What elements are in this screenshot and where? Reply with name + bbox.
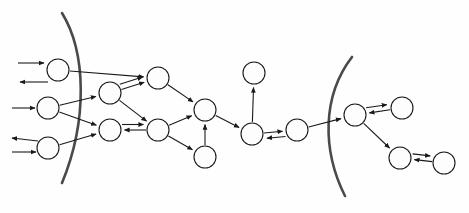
edge-M1-to-M4 bbox=[120, 100, 147, 121]
edge-M4-to-M6 bbox=[168, 136, 192, 150]
node-circle[interactable] bbox=[243, 62, 265, 84]
node-circle[interactable] bbox=[147, 67, 169, 89]
node-circle[interactable] bbox=[194, 99, 216, 121]
edge-M5-to-C2 bbox=[216, 115, 239, 127]
graph-node-M2[interactable] bbox=[99, 119, 121, 141]
edge-C2-to-C1 bbox=[252, 87, 253, 122]
graph-node-L2[interactable] bbox=[37, 97, 59, 119]
edge-L3-to-M2 bbox=[60, 134, 97, 145]
graph-node-M5[interactable] bbox=[194, 99, 216, 121]
nodes-group bbox=[37, 59, 455, 174]
edge-R4-to-R3 bbox=[414, 160, 432, 162]
edge-C3-to-R1 bbox=[309, 119, 341, 127]
edge-M1-to-M3 bbox=[121, 82, 144, 89]
graph-node-R2[interactable] bbox=[391, 97, 413, 119]
graph-node-C2[interactable] bbox=[241, 123, 263, 145]
edge-R2-to-R1 bbox=[369, 110, 390, 113]
node-circle[interactable] bbox=[391, 97, 413, 119]
graph-node-R1[interactable] bbox=[344, 104, 366, 126]
node-circle[interactable] bbox=[99, 119, 121, 141]
node-circle[interactable] bbox=[99, 82, 121, 104]
node-circle[interactable] bbox=[433, 152, 455, 174]
graph-node-L1[interactable] bbox=[47, 59, 69, 81]
edge-M3-to-M5 bbox=[168, 85, 193, 102]
node-circle[interactable] bbox=[37, 137, 59, 159]
edge-R3-to-R4 bbox=[413, 154, 431, 156]
edge-M4-to-M5 bbox=[169, 116, 192, 126]
graph-node-C1[interactable] bbox=[243, 62, 265, 84]
node-circle[interactable] bbox=[389, 147, 411, 169]
graph-node-C3[interactable] bbox=[286, 119, 308, 141]
edge-R1-to-R2 bbox=[366, 105, 387, 108]
edge-L2-to-M1 bbox=[60, 96, 96, 105]
graph-node-M4[interactable] bbox=[147, 119, 169, 141]
graph-node-M1[interactable] bbox=[99, 82, 121, 104]
outgoing-arrow-bottom bbox=[12, 138, 38, 141]
node-circle[interactable] bbox=[194, 146, 216, 168]
graph-node-R3[interactable] bbox=[389, 147, 411, 169]
node-circle[interactable] bbox=[344, 104, 366, 126]
graph-node-M3[interactable] bbox=[147, 67, 169, 89]
diagram-canvas bbox=[0, 0, 469, 213]
left-boundary-arc bbox=[62, 13, 81, 183]
edge-R1-to-R3 bbox=[364, 123, 390, 148]
edge-M1-to-M3 bbox=[120, 77, 143, 84]
node-circle[interactable] bbox=[286, 119, 308, 141]
right-boundary-arc bbox=[329, 57, 352, 196]
edge-C2-to-C3 bbox=[264, 131, 283, 133]
graph-node-M6[interactable] bbox=[194, 146, 216, 168]
graph-svg bbox=[0, 0, 469, 213]
edge-C3-to-C2 bbox=[267, 137, 286, 139]
node-circle[interactable] bbox=[47, 59, 69, 81]
node-circle[interactable] bbox=[37, 97, 59, 119]
graph-node-R4[interactable] bbox=[433, 152, 455, 174]
graph-node-L3[interactable] bbox=[37, 137, 59, 159]
node-circle[interactable] bbox=[241, 123, 263, 145]
node-circle[interactable] bbox=[147, 119, 169, 141]
